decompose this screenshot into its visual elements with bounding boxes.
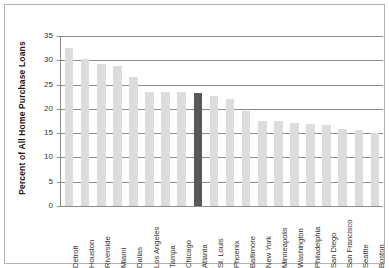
bar-san-francisco: [338, 129, 347, 206]
bar-philadelphia: [306, 124, 315, 206]
y-tick-mark: [57, 182, 60, 183]
x-tick-label: Baltimore: [249, 236, 257, 268]
x-tick-label: Los Angeles: [153, 227, 161, 268]
x-tick-label: Riverside: [104, 236, 112, 268]
x-tick-label: Chicago: [185, 240, 193, 268]
bar-baltimore: [242, 111, 251, 206]
x-tick-label: Philadelphia: [314, 227, 322, 268]
x-axis-line: [61, 206, 383, 207]
bar-tampa: [161, 92, 170, 206]
bar-washington: [290, 123, 299, 206]
bar-los-angeles: [145, 92, 154, 206]
chart-figure: Percent of All Home Purchase Loans 05101…: [0, 0, 389, 268]
x-tick-label: Houston: [88, 240, 96, 268]
y-tick-mark: [57, 85, 60, 86]
x-tick-label: Tampa: [169, 245, 177, 268]
y-tick-mark: [57, 157, 60, 158]
y-tick-mark: [57, 206, 60, 207]
y-tick-label: 10: [31, 153, 53, 161]
y-tick-label: 0: [31, 202, 53, 210]
x-tick-label: Atlanta: [201, 244, 209, 268]
chart-frame: Percent of All Home Purchase Loans 05101…: [4, 4, 385, 264]
bar-miami: [113, 66, 122, 206]
bar-seattle: [355, 130, 364, 206]
y-tick-label: 15: [31, 129, 53, 137]
x-tick-label: Dallas: [136, 247, 144, 268]
x-tick-label: Miami: [120, 248, 128, 268]
y-tick-label: 5: [31, 178, 53, 186]
x-tick-label: Seattle: [362, 244, 370, 268]
bar-boston: [371, 133, 380, 206]
bar-san-diego: [322, 125, 331, 206]
x-axis-labels: DetroitHoustonRiversideMiamiDallasLos An…: [61, 208, 383, 268]
y-tick-label: 20: [31, 105, 53, 113]
bar-chicago: [177, 92, 186, 206]
x-tick-label: Phoenix: [233, 241, 241, 268]
x-tick-label: San Francisco: [346, 219, 354, 268]
y-tick-label: 30: [31, 56, 53, 64]
bar-minneapolis: [274, 121, 283, 206]
bar-houston: [81, 59, 90, 206]
x-tick-label: Boston: [378, 244, 386, 268]
x-tick-label: Minneapolis: [281, 227, 289, 268]
bar-dallas: [129, 77, 138, 206]
y-tick-mark: [57, 36, 60, 37]
bar-riverside: [97, 64, 106, 206]
y-tick-mark: [57, 60, 60, 61]
bar-detroit: [65, 48, 74, 206]
x-tick-label: San Diego: [330, 233, 338, 268]
y-tick-mark: [57, 133, 60, 134]
plot-area: [61, 36, 383, 206]
y-axis-title: Percent of All Home Purchase Loans: [17, 38, 27, 198]
x-tick-label: Washington: [297, 228, 305, 268]
bar-phoenix: [226, 99, 235, 206]
x-tick-label: Detroit: [72, 246, 80, 268]
bar-new-york: [258, 121, 267, 206]
y-tick-label: 25: [31, 81, 53, 89]
x-tick-label: New York: [265, 236, 273, 268]
y-tick-label: 35: [31, 32, 53, 40]
bar-series: [61, 36, 383, 206]
y-tick-mark: [57, 109, 60, 110]
x-tick-label: St. Louis: [217, 238, 225, 268]
bar-st-louis: [210, 96, 219, 206]
bar-atlanta: [194, 93, 203, 206]
